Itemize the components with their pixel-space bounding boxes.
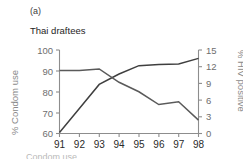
right-tick-label-6: 6: [206, 95, 211, 106]
left-tick-label-90: 90: [42, 66, 53, 77]
right-tick-label-0: 0: [206, 128, 211, 139]
right-tick-label-15: 15: [206, 45, 217, 56]
clipped-caption: Condom use: [26, 152, 77, 159]
right-tick-label-12: 12: [206, 61, 217, 72]
left-tick-label-80: 80: [42, 87, 53, 98]
x-tick-label-98: 98: [193, 139, 205, 150]
x-tick-label-93: 93: [94, 139, 106, 150]
right-tick-label-9: 9: [206, 78, 211, 89]
x-tick-label-97: 97: [173, 139, 185, 150]
x-tick-label-94: 94: [114, 139, 126, 150]
left-axis-title: % Condom use: [9, 70, 20, 135]
x-tick-label-95: 95: [133, 139, 145, 150]
figure-panel: (a) Thai draftees % Condom use % HIV pos…: [0, 0, 243, 159]
series-line-condom-use: [60, 58, 199, 132]
x-tick-label-96: 96: [153, 139, 165, 150]
x-tick-label-91: 91: [54, 139, 66, 150]
left-tick-label-70: 70: [42, 108, 53, 119]
left-tick-label-60: 60: [42, 128, 53, 139]
series-line-hiv-positive: [60, 69, 199, 120]
x-tick-label-92: 92: [74, 139, 86, 150]
right-tick-label-3: 3: [206, 111, 211, 122]
left-tick-label-100: 100: [37, 45, 53, 56]
right-axis-title: % HIV positive: [236, 50, 243, 112]
line-chart: % Condom use % HIV positive 100 90 80 70…: [0, 0, 243, 159]
